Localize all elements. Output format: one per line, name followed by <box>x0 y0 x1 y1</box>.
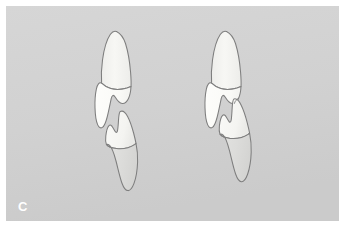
panel-label: C <box>18 200 28 213</box>
panel-canvas: C <box>6 6 339 221</box>
tooth-diagram-svg <box>6 6 339 221</box>
panel-background <box>6 6 339 221</box>
figure-panel: C <box>0 0 345 227</box>
